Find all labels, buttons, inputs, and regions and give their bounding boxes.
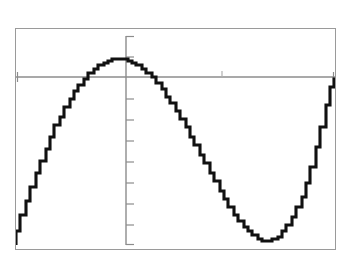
- cubic-curve-trace: [16, 59, 335, 245]
- calculator-screen-frame: [15, 28, 336, 250]
- graph-plot-area: [16, 29, 335, 249]
- screenshot-root: [0, 0, 351, 276]
- y-axis-ticks: [126, 57, 134, 225]
